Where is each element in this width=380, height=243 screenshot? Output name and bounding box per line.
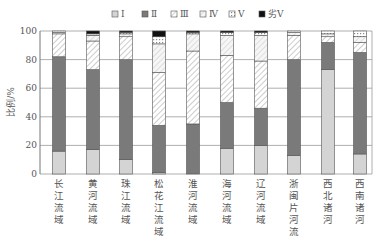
bar-segment [255, 145, 268, 174]
bar-stack [87, 31, 100, 174]
legend-swatch-icon [229, 11, 235, 17]
bar-segment [255, 32, 268, 35]
x-category-label: 浙闽片河流 [289, 178, 299, 237]
legend: ⅠⅡⅢⅣⅤ劣Ⅴ [112, 8, 284, 19]
legend-item: Ⅴ [229, 9, 245, 19]
bar-segment [288, 31, 301, 32]
bar-segment [221, 32, 234, 35]
bar-segment [322, 42, 335, 69]
bar-segment [87, 31, 100, 34]
legend-swatch-icon [142, 11, 148, 17]
bar-segment [354, 31, 367, 37]
x-category-label: 西北诸河 [323, 178, 333, 225]
bars [53, 31, 367, 174]
bar-segment [187, 31, 200, 32]
y-axis-label: 比例/% [5, 87, 16, 117]
bar-segment [354, 154, 367, 174]
x-category-label: 西南诸河 [355, 178, 365, 225]
bar-segment [53, 151, 66, 174]
bar-stack [322, 31, 335, 174]
y-tick-label: 0 [31, 169, 37, 179]
bar-segment [255, 35, 268, 61]
bar-segment [120, 34, 133, 37]
bar-segment [221, 148, 234, 174]
bar-segment [187, 51, 200, 124]
x-category-label: 松花江流域 [154, 178, 164, 237]
bar-segment [354, 42, 367, 52]
bar-segment [288, 60, 301, 156]
legend-item: 劣Ⅴ [259, 8, 284, 19]
y-tick-label: 60 [26, 83, 38, 93]
y-tick-label: 40 [26, 112, 38, 122]
legend-label: Ⅰ [121, 9, 125, 19]
bar-stack [187, 31, 200, 174]
x-category-label: 珠江流域 [121, 178, 131, 225]
legend-item: Ⅲ [171, 9, 189, 19]
bar-segment [87, 150, 100, 174]
bar-segment [87, 70, 100, 150]
bar-segment [322, 34, 335, 37]
legend-label: Ⅳ [209, 9, 219, 19]
bar-segment [221, 31, 234, 32]
bar-segment [53, 34, 66, 57]
legend-label: Ⅴ [237, 9, 245, 19]
bar-segment [288, 32, 301, 35]
bar-segment [187, 124, 200, 174]
x-category-label: 黄河流域 [88, 178, 98, 225]
y-tick-label: 100 [20, 26, 37, 36]
bar-segment [322, 70, 335, 174]
bar-segment [255, 31, 268, 32]
x-category-label: 海河流域 [222, 178, 232, 225]
x-category-label: 淮河流域 [188, 178, 198, 225]
bar-segment [53, 57, 66, 151]
legend-swatch-icon [200, 11, 206, 17]
y-axis: 020406080100 [20, 26, 37, 179]
bar-segment [120, 37, 133, 60]
bar-segment [87, 41, 100, 70]
bar-stack [53, 31, 66, 174]
y-tick-label: 80 [26, 55, 38, 65]
x-category-label: 长江流域 [54, 178, 64, 225]
stacked-bar-chart: 020406080100 长江流域黄河流域珠江流域松花江流域淮河流域海河流域辽河… [0, 0, 380, 243]
legend-swatch-icon [112, 11, 118, 17]
bar-segment [255, 61, 268, 108]
bar-segment [221, 55, 234, 102]
bar-stack [120, 31, 133, 174]
bar-segment [221, 103, 234, 149]
bar-segment [221, 35, 234, 55]
bar-segment [354, 52, 367, 154]
x-axis-labels: 长江流域黄河流域珠江流域松花江流域淮河流域海河流域辽河流域浙闽片河流西北诸河西南… [54, 178, 365, 237]
legend-item: Ⅱ [142, 9, 157, 19]
legend-swatch-icon [171, 11, 177, 17]
legend-swatch-icon [259, 11, 265, 17]
bar-segment [153, 31, 166, 37]
bar-segment [120, 60, 133, 160]
bar-segment [354, 37, 367, 43]
bar-segment [288, 35, 301, 59]
bar-stack [221, 31, 234, 174]
legend-label: Ⅱ [151, 9, 157, 19]
bar-stack [288, 31, 301, 174]
legend-label: Ⅲ [180, 9, 189, 19]
legend-item: Ⅳ [200, 9, 219, 19]
bar-segment [153, 125, 166, 172]
bar-segment [288, 155, 301, 174]
bar-segment [120, 31, 133, 32]
legend-label: 劣Ⅴ [268, 8, 284, 19]
bar-segment [53, 31, 66, 32]
x-category-label: 辽河流域 [256, 178, 266, 225]
bar-segment [153, 72, 166, 125]
bar-stack [255, 31, 268, 174]
bar-segment [153, 44, 166, 73]
bar-stack [153, 31, 166, 174]
bar-stack [354, 31, 367, 174]
legend-item: Ⅰ [112, 9, 125, 19]
bar-segment [120, 160, 133, 174]
y-tick-label: 20 [26, 140, 38, 150]
bar-segment [322, 37, 335, 43]
bar-segment [187, 34, 200, 51]
bar-segment [255, 108, 268, 145]
bar-segment [153, 37, 166, 44]
bar-segment [322, 31, 335, 34]
bar-segment [87, 35, 100, 41]
